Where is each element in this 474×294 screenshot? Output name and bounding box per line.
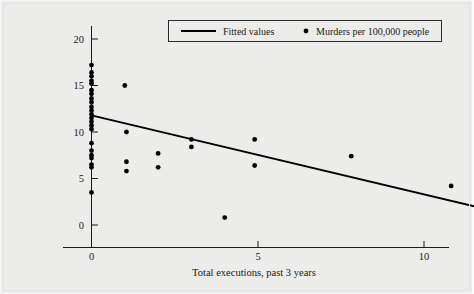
data-point bbox=[449, 184, 454, 189]
data-point bbox=[89, 63, 94, 68]
y-axis-ticks: 20 15 10 5 0 bbox=[74, 34, 99, 231]
data-point bbox=[124, 159, 129, 164]
data-point bbox=[252, 137, 257, 142]
data-point bbox=[89, 156, 94, 161]
data-point bbox=[189, 137, 194, 142]
data-point bbox=[124, 130, 129, 135]
data-point bbox=[89, 100, 94, 105]
data-point bbox=[156, 165, 161, 170]
y-tick-label-10: 10 bbox=[74, 127, 85, 138]
data-point bbox=[252, 163, 257, 168]
data-point bbox=[89, 165, 94, 170]
data-point bbox=[89, 190, 94, 195]
y-tick-label-15: 15 bbox=[74, 80, 85, 91]
data-point bbox=[122, 83, 127, 88]
data-point bbox=[222, 215, 227, 220]
x-tick-label-5: 5 bbox=[255, 251, 260, 262]
data-point bbox=[89, 74, 94, 79]
data-point bbox=[124, 169, 129, 174]
x-axis-ticks: 0 5 10 bbox=[89, 241, 429, 262]
x-axis-title: Total executions, past 3 years bbox=[192, 267, 316, 278]
chart-legend: Fitted values Murders per 100,000 people bbox=[169, 21, 442, 42]
data-point bbox=[189, 144, 194, 149]
data-point bbox=[89, 141, 94, 146]
data-point bbox=[89, 148, 94, 153]
legend-label-murders: Murders per 100,000 people bbox=[316, 26, 430, 37]
fitted-values-line bbox=[92, 115, 474, 206]
data-point bbox=[89, 127, 94, 132]
y-tick-label-5: 5 bbox=[79, 173, 84, 184]
data-points-group bbox=[89, 63, 453, 220]
x-tick-label-10: 10 bbox=[419, 251, 430, 262]
legend-label-fitted-values: Fitted values bbox=[223, 26, 274, 37]
data-point bbox=[156, 151, 161, 156]
data-point bbox=[349, 154, 354, 159]
legend-dot-swatch bbox=[304, 29, 309, 34]
scatter-plot: 20 15 10 5 0 0 5 10 Total executions, pa… bbox=[1, 1, 474, 294]
data-point bbox=[89, 81, 94, 86]
y-tick-label-0: 0 bbox=[79, 220, 84, 231]
y-tick-label-20: 20 bbox=[74, 34, 85, 45]
data-point bbox=[89, 91, 94, 96]
x-tick-label-0: 0 bbox=[89, 251, 94, 262]
